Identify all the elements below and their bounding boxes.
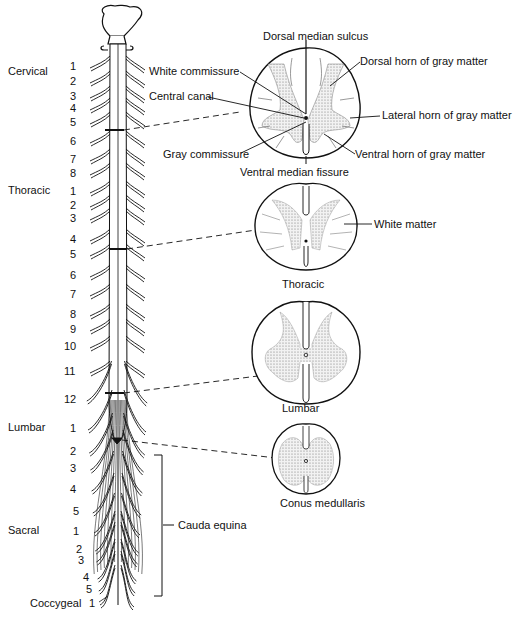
nerve-number: 6: [70, 270, 76, 281]
nerve-number: 3: [70, 91, 76, 102]
thoracic-cross-section: [255, 183, 372, 270]
caption-thoracic: Thoracic: [282, 279, 324, 290]
nerve-number: 3: [78, 555, 84, 566]
nerve-number: 1: [70, 61, 76, 72]
caption-conus-medullaris: Conus medullaris: [280, 498, 365, 509]
nerve-number: 9: [70, 324, 76, 335]
nerve-number: 10: [64, 341, 76, 352]
region-label-coccygeal: Coccygeal: [30, 598, 81, 609]
label-lateral-horn: Lateral horn of gray matter: [382, 110, 512, 121]
nerve-number: 1: [70, 423, 76, 434]
nerve-number: 3: [70, 463, 76, 474]
label-dorsal-median-sulcus: Dorsal median sulcus: [263, 31, 368, 42]
nerve-number: 2: [70, 200, 76, 211]
label-ventral-horn: Ventral horn of gray matter: [355, 149, 485, 160]
label-ventral-median-fissure: Ventral median fissure: [240, 167, 349, 178]
label-gray-commissure: Gray commissure: [163, 149, 249, 160]
nerve-number: 6: [70, 136, 76, 147]
lumbar-cross-section: [252, 302, 360, 404]
nerve-number: 5: [70, 117, 76, 128]
label-cauda-equina: Cauda equina: [178, 520, 247, 531]
nerve-number: 5: [70, 249, 76, 260]
region-label-cervical: Cervical: [8, 66, 48, 77]
nerve-number: 3: [70, 213, 76, 224]
nerve-number: 7: [70, 154, 76, 165]
nerve-number: 4: [83, 572, 89, 583]
label-white-commissure: White commissure: [149, 66, 239, 77]
nerve-number: 4: [70, 484, 76, 495]
nerve-number: 11: [64, 366, 75, 377]
region-label-thoracic: Thoracic: [8, 185, 50, 196]
cervical-cross-section: [250, 40, 360, 164]
connector-lines: [122, 112, 276, 458]
nerve-number: 8: [70, 309, 76, 320]
cauda-equina-bracket: [154, 455, 174, 596]
conus-medullaris-cross-section: [272, 424, 340, 494]
nerve-number: 2: [70, 446, 76, 457]
nerve-number: 1: [73, 526, 79, 537]
nerve-number: 7: [70, 289, 76, 300]
nerve-number: 12: [64, 394, 76, 405]
region-label-sacral: Sacral: [8, 525, 39, 536]
nerve-number: 4: [70, 103, 76, 114]
label-white-matter: White matter: [374, 219, 436, 230]
label-central-canal: Central canal: [149, 91, 214, 102]
nerve-number: 5: [73, 506, 79, 517]
nerve-number: 4: [70, 234, 76, 245]
nerve-number: 1: [70, 186, 76, 197]
caption-lumbar: Lumbar: [282, 403, 319, 414]
nerve-number: 5: [86, 584, 92, 595]
brainstem: [101, 5, 142, 50]
nerve-number: 8: [70, 168, 76, 179]
nerve-number: 2: [70, 76, 76, 87]
nerve-number: 1: [89, 598, 95, 609]
region-label-lumbar: Lumbar: [8, 422, 45, 433]
label-dorsal-horn: Dorsal horn of gray matter: [360, 56, 488, 67]
